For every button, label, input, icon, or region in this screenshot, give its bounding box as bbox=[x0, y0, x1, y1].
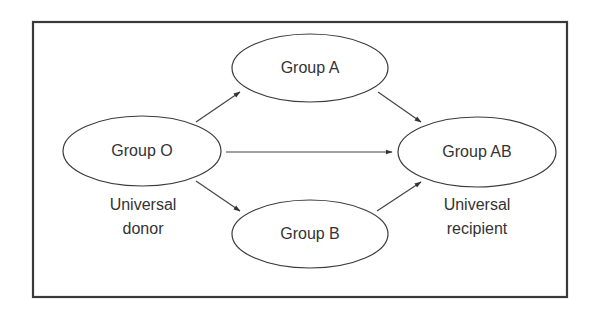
caption-donor-line2: donor bbox=[123, 220, 165, 237]
node-group-b: Group B bbox=[232, 200, 388, 268]
edge-b-to-ab bbox=[377, 182, 421, 211]
caption-universal-donor: Universal donor bbox=[110, 196, 177, 237]
node-group-b-label: Group B bbox=[280, 225, 340, 242]
caption-recipient-line1: Universal bbox=[444, 196, 511, 213]
caption-universal-recipient: Universal recipient bbox=[444, 196, 511, 237]
node-group-o: Group O bbox=[63, 116, 221, 186]
edge-o-to-a bbox=[196, 92, 240, 122]
blood-group-compatibility-diagram: Group A Group O Group AB Group B Univers… bbox=[0, 0, 595, 313]
node-group-a: Group A bbox=[232, 34, 388, 102]
node-group-ab: Group AB bbox=[398, 117, 556, 187]
node-group-ab-label: Group AB bbox=[442, 143, 511, 160]
node-group-o-label: Group O bbox=[111, 142, 172, 159]
edges bbox=[196, 92, 421, 211]
caption-recipient-line2: recipient bbox=[447, 220, 508, 237]
edge-o-to-b bbox=[196, 181, 240, 211]
node-group-a-label: Group A bbox=[281, 59, 340, 76]
caption-donor-line1: Universal bbox=[110, 196, 177, 213]
edge-a-to-ab bbox=[378, 92, 421, 122]
